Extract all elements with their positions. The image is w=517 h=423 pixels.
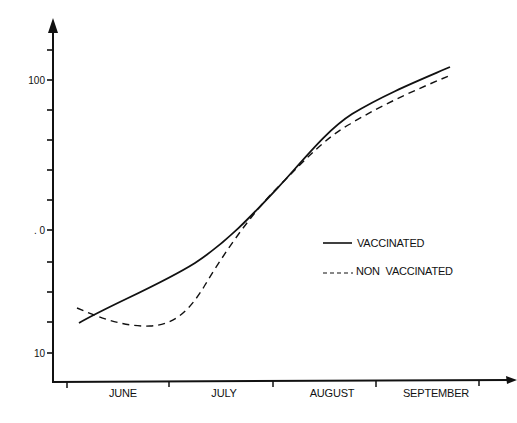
x-label-july: JULY bbox=[211, 387, 237, 399]
x-label-september: SEPTEMBER bbox=[403, 387, 469, 399]
line-chart: 100 . 0 10 JUNE JULY AUGUST SEPTEMBER VA… bbox=[0, 0, 517, 423]
x-axis: JUNE JULY AUGUST SEPTEMBER bbox=[52, 376, 517, 399]
legend: VACCINATED NON VACCINATED bbox=[323, 237, 453, 277]
x-label-june: JUNE bbox=[109, 387, 137, 399]
series-non-vaccinated-line bbox=[77, 75, 451, 326]
y-tick-label-mid: . 0 bbox=[34, 225, 46, 236]
y-axis: 100 . 0 10 bbox=[28, 18, 58, 382]
y-axis-arrow-icon bbox=[48, 18, 58, 33]
y-tick-label-10: 10 bbox=[34, 348, 46, 359]
series-vaccinated-line bbox=[79, 67, 450, 323]
y-tick-label-100: 100 bbox=[28, 75, 45, 86]
x-label-august: AUGUST bbox=[310, 387, 355, 399]
legend-label-vaccinated: VACCINATED bbox=[357, 237, 425, 249]
x-axis-arrow-icon bbox=[506, 376, 517, 384]
legend-label-non-vaccinated: NON VACCINATED bbox=[356, 265, 453, 277]
